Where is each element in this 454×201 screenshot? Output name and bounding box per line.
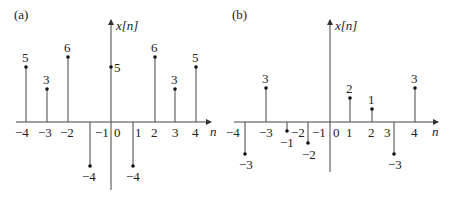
tick-labels-a: −4 −3 −2 −1 0 1 2 3 4 <box>15 125 199 140</box>
tick-label: 0 <box>114 125 121 140</box>
tick-label: 3 <box>384 125 391 140</box>
tick-label: 0 <box>333 125 340 140</box>
value-label: −3 <box>239 157 253 172</box>
tick-label: −4 <box>226 125 240 140</box>
value-label: −4 <box>126 169 140 184</box>
value-label: 6 <box>151 40 158 55</box>
y-axis-label-b: x[n] <box>334 18 357 33</box>
value-label: −4 <box>82 169 96 184</box>
value-label: −2 <box>302 147 316 162</box>
tick-label: 1 <box>346 125 353 140</box>
tick-label: −3 <box>38 125 52 140</box>
value-label: 3 <box>43 72 50 87</box>
value-label: 5 <box>114 60 121 75</box>
tick-label: −1 <box>95 125 109 140</box>
panel-b: (b) x[n] n −4 −3 −2 −1 0 1 2 3 4 −3 3 −1… <box>226 7 439 172</box>
tick-label: −4 <box>15 125 29 140</box>
tick-label: −1 <box>312 125 326 140</box>
tick-label: 2 <box>151 125 158 140</box>
value-label: 2 <box>346 81 353 96</box>
x-axis-label-a: n <box>210 124 217 139</box>
x-axis-label-b: n <box>432 124 439 139</box>
stems-a: 5 3 6 −4 5 −4 6 3 5 <box>22 40 199 184</box>
value-label: 1 <box>368 92 375 107</box>
value-label: 3 <box>411 71 418 86</box>
value-label: 6 <box>64 40 71 55</box>
value-label: 3 <box>171 72 178 87</box>
tick-label: 4 <box>192 125 199 140</box>
tick-label: 2 <box>368 125 375 140</box>
tick-label: 1 <box>135 125 142 140</box>
value-label: 5 <box>192 50 199 65</box>
tick-label: −3 <box>259 125 273 140</box>
panel-a: (a) x[n] n −4 −3 −2 −1 0 1 2 3 4 5 3 6 −… <box>14 7 217 190</box>
panel-label-b: (b) <box>232 7 247 22</box>
tick-label: 4 <box>411 125 418 140</box>
value-label: 3 <box>262 71 269 86</box>
tick-label: 3 <box>172 125 179 140</box>
value-label: −3 <box>388 157 402 172</box>
figure: (a) x[n] n −4 −3 −2 −1 0 1 2 3 4 5 3 6 −… <box>0 0 454 201</box>
tick-labels-b: −4 −3 −2 −1 0 1 2 3 4 <box>226 125 418 140</box>
value-label: −1 <box>280 135 294 150</box>
y-axis-label-a: x[n] <box>115 18 138 33</box>
panel-label-a: (a) <box>14 7 28 22</box>
tick-label: −2 <box>60 125 74 140</box>
value-label: 5 <box>22 50 29 65</box>
